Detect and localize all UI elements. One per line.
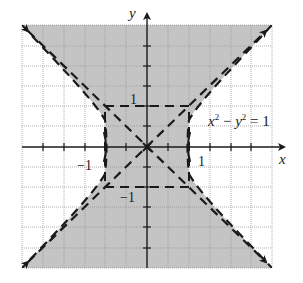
equation-label: x2 − y2 = 1	[207, 112, 270, 129]
hyperbola-diagram: y x 1 −1 1 −1 x2 − y2 = 1	[0, 0, 303, 283]
tick-label-y-pos: 1	[130, 92, 137, 107]
x-axis-label: x	[278, 151, 286, 167]
y-axis-label: y	[127, 5, 136, 21]
tick-label-x-neg: −1	[77, 158, 92, 173]
tick-label-y-neg: −1	[120, 190, 135, 205]
tick-label-x-pos: 1	[198, 154, 205, 169]
